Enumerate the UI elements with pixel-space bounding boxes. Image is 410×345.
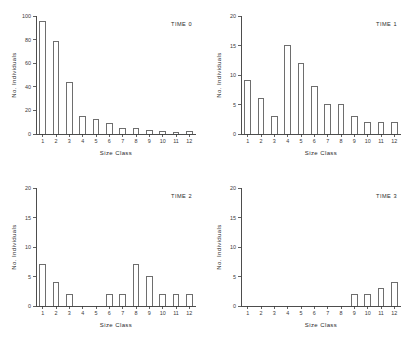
- bar: [107, 294, 113, 306]
- x-tick-label: 3: [68, 138, 71, 144]
- y-tick-label: 10: [230, 72, 236, 78]
- bar: [272, 116, 278, 134]
- bar: [160, 294, 166, 306]
- y-axis-title: No. Individuals: [216, 224, 222, 269]
- panel-time-label: TIME 3: [376, 193, 397, 199]
- y-tick-label: 80: [25, 37, 31, 43]
- bar: [133, 265, 139, 306]
- x-tick-label: 9: [353, 310, 356, 316]
- x-axis-title: Size Class: [100, 322, 132, 328]
- x-tick-label: 2: [260, 138, 263, 144]
- bar: [378, 288, 384, 306]
- axis-spines: [36, 188, 196, 306]
- x-tick-label: 10: [365, 138, 371, 144]
- y-axis-title: No. Individuals: [11, 52, 17, 97]
- x-tick-label: 10: [160, 138, 166, 144]
- x-tick-label: 6: [108, 310, 111, 316]
- x-tick-label: 2: [55, 138, 58, 144]
- chart-panel-time-0: 020406080100123456789101112Size ClassNo.…: [0, 0, 205, 172]
- bar: [40, 265, 46, 306]
- panel-time-label: TIME 1: [376, 21, 397, 27]
- y-tick-label: 5: [233, 102, 236, 108]
- x-tick-label: 12: [186, 310, 192, 316]
- x-tick-label: 8: [135, 138, 138, 144]
- bar: [298, 63, 304, 134]
- x-axis-title: Size Class: [100, 150, 132, 156]
- bar: [147, 130, 153, 134]
- bar: [285, 46, 291, 135]
- y-axis-title: No. Individuals: [216, 52, 222, 97]
- panel-time-label: TIME 0: [171, 21, 192, 27]
- chart-panel-time-2: 05101520123456789101112Size ClassNo. Ind…: [0, 172, 205, 344]
- x-tick-label: 1: [41, 138, 44, 144]
- x-tick-label: 4: [286, 138, 289, 144]
- bar: [338, 105, 344, 135]
- bar: [187, 294, 193, 306]
- x-tick-label: 9: [148, 138, 151, 144]
- y-tick-label: 15: [230, 43, 236, 49]
- bar: [378, 122, 384, 134]
- x-tick-label: 3: [68, 310, 71, 316]
- y-tick-label: 20: [230, 185, 236, 191]
- x-tick-label: 7: [121, 310, 124, 316]
- x-tick-label: 1: [41, 310, 44, 316]
- bar: [392, 122, 398, 134]
- bar: [93, 120, 99, 134]
- y-tick-label: 0: [28, 131, 31, 137]
- bar: [120, 294, 126, 306]
- x-tick-label: 8: [340, 138, 343, 144]
- x-tick-label: 12: [391, 138, 397, 144]
- y-tick-label: 10: [25, 244, 31, 250]
- bar: [147, 277, 153, 307]
- x-tick-label: 4: [81, 138, 84, 144]
- bar: [160, 132, 166, 134]
- bar: [365, 294, 371, 306]
- y-tick-label: 5: [233, 274, 236, 280]
- bar: [392, 282, 398, 306]
- plot-area-3: 05101520123456789101112Size ClassNo. Ind…: [205, 172, 410, 344]
- x-tick-label: 2: [55, 310, 58, 316]
- x-tick-label: 10: [365, 310, 371, 316]
- bar: [53, 42, 59, 134]
- bar: [133, 128, 139, 134]
- bar: [40, 22, 46, 134]
- x-tick-label: 7: [326, 310, 329, 316]
- plot-area-2: 05101520123456789101112Size ClassNo. Ind…: [0, 172, 205, 344]
- x-tick-label: 4: [286, 310, 289, 316]
- x-tick-label: 3: [273, 310, 276, 316]
- bar: [352, 116, 358, 134]
- y-tick-label: 20: [25, 185, 31, 191]
- bar: [107, 123, 113, 134]
- y-tick-label: 15: [25, 215, 31, 221]
- x-tick-label: 3: [273, 138, 276, 144]
- x-tick-label: 6: [313, 310, 316, 316]
- x-tick-label: 7: [326, 138, 329, 144]
- x-tick-label: 5: [300, 138, 303, 144]
- x-tick-label: 5: [95, 310, 98, 316]
- bar: [67, 82, 73, 134]
- bar: [80, 116, 86, 134]
- panel-time-label: TIME 2: [171, 193, 192, 199]
- bar: [187, 132, 193, 134]
- bar: [258, 99, 264, 134]
- size-class-distribution-figure: 020406080100123456789101112Size ClassNo.…: [0, 0, 410, 345]
- bar: [53, 282, 59, 306]
- bar: [312, 87, 318, 134]
- bar: [245, 81, 251, 134]
- x-tick-label: 11: [378, 310, 384, 316]
- bar: [365, 122, 371, 134]
- y-tick-label: 10: [230, 244, 236, 250]
- x-tick-label: 1: [246, 310, 249, 316]
- x-tick-label: 10: [160, 310, 166, 316]
- y-axis-title: No. Individuals: [11, 224, 17, 269]
- y-tick-label: 60: [25, 60, 31, 66]
- x-axis-title: Size Class: [305, 322, 337, 328]
- bar: [352, 294, 358, 306]
- axis-spines: [241, 188, 401, 306]
- x-tick-label: 8: [340, 310, 343, 316]
- x-tick-label: 11: [378, 138, 384, 144]
- x-tick-label: 6: [313, 138, 316, 144]
- y-tick-label: 0: [233, 303, 236, 309]
- x-tick-label: 12: [186, 138, 192, 144]
- y-tick-label: 0: [28, 303, 31, 309]
